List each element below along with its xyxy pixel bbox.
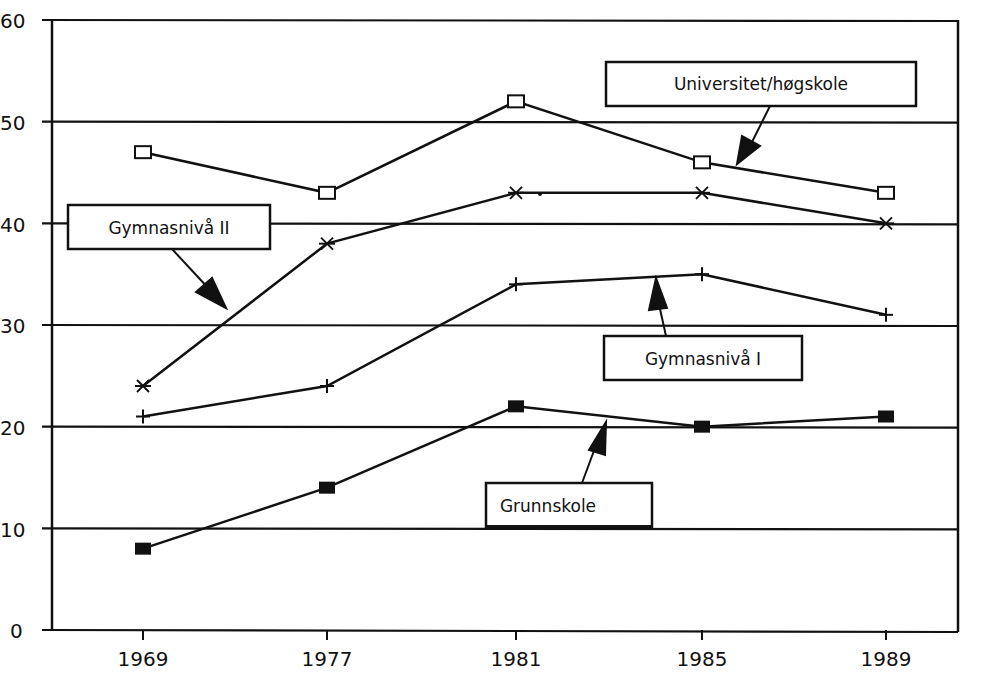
arrow-icon (737, 106, 770, 164)
y-tick-label: 20 (0, 416, 25, 440)
plus-marker-icon (879, 308, 893, 322)
y-tick-label: 60 (0, 9, 25, 33)
x-tick-label: 1981 (491, 647, 542, 671)
y-tick-label: 0 (10, 619, 23, 643)
series-universitet-h-gskole (135, 95, 894, 198)
y-tick-label: 10 (0, 518, 25, 542)
callout-universitet: Universitet/høgskole (606, 62, 916, 106)
y-tick-label: 30 (0, 314, 25, 338)
arrow-icon (582, 422, 606, 483)
gridline (42, 427, 958, 428)
asterisk-marker-icon (878, 217, 894, 229)
callout-gymnasniva-1: Gymnasnivå I (604, 336, 802, 380)
series-line (143, 101, 886, 192)
plus-marker-icon (320, 379, 334, 393)
open-square-marker-icon (694, 156, 710, 168)
callout-label: Universitet/høgskole (674, 74, 848, 94)
plus-marker-icon (136, 410, 150, 424)
x-tick-label: 1985 (677, 647, 728, 671)
x-axis-labels: 1969 1977 1981 1985 1989 (118, 647, 912, 671)
y-tick-label: 50 (0, 111, 25, 135)
x-tick-label: 1977 (302, 647, 353, 671)
plus-marker-icon (509, 277, 523, 291)
gridline (42, 325, 958, 326)
filled-square-marker-icon (878, 411, 894, 423)
callout-gymnasniva-2: Gymnasnivå II (68, 205, 270, 249)
asterisk-marker-icon (694, 187, 710, 199)
open-square-marker-icon (135, 146, 151, 158)
gridline (42, 630, 958, 632)
gridline (42, 122, 958, 123)
arrow-icon (172, 249, 226, 308)
open-square-marker-icon (319, 187, 335, 199)
asterisk-marker-icon (135, 380, 151, 392)
gridlines (42, 20, 958, 632)
filled-square-marker-icon (135, 543, 151, 555)
asterisk-marker-icon (319, 238, 335, 250)
filled-square-marker-icon (508, 400, 524, 412)
line-chart: 0 10 20 30 40 50 60 1969 1977 1981 1985 … (0, 0, 982, 674)
y-tick-label: 40 (0, 213, 25, 237)
callout-grunnskole: Grunnskole (486, 483, 652, 527)
callout-label: Grunnskole (500, 496, 596, 516)
x-tick-label: 1989 (861, 647, 912, 671)
x-tick-label: 1969 (118, 647, 169, 671)
series-grunnskole (135, 400, 894, 554)
arrow-icon (649, 278, 667, 336)
gridline (42, 20, 958, 21)
y-axis-ticks: 0 10 20 30 40 50 60 (0, 9, 25, 643)
filled-square-marker-icon (319, 482, 335, 494)
callout-label: Gymnasnivå II (108, 218, 229, 238)
asterisk-marker-icon (508, 187, 524, 199)
stray-dot (538, 192, 542, 196)
filled-square-marker-icon (694, 421, 710, 433)
plus-marker-icon (695, 267, 709, 281)
open-square-marker-icon (878, 187, 894, 199)
callout-label: Gymnasnivå I (645, 349, 761, 369)
open-square-marker-icon (508, 95, 524, 107)
